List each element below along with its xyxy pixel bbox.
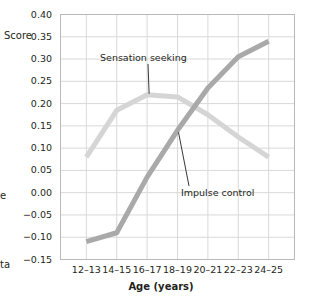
- x-axis-tick-label: 24–25: [254, 264, 283, 275]
- x-axis-tick-label: 14–15: [102, 264, 131, 275]
- x-axis-tick-label: 18–19: [163, 264, 192, 275]
- plot-area: [0, 0, 322, 301]
- x-axis-tick-label: 12–13: [72, 264, 101, 275]
- chart-figure: Score e ta 0.400.350.300.250.200.150.100…: [0, 0, 322, 301]
- leader-line-sensation-seeking: [148, 64, 149, 94]
- x-axis-tick-label: 20–21: [193, 264, 222, 275]
- leader-line-impulse-control: [179, 132, 190, 186]
- x-axis-tick-label: 16–17: [133, 264, 162, 275]
- annotation-label-sensation-seeking: Sensation seeking: [100, 52, 187, 63]
- x-axis-title: Age (years): [0, 281, 322, 292]
- x-axis-tick-label: 22–23: [224, 264, 253, 275]
- annotation-label-impulse-control: Impulse control: [181, 187, 255, 198]
